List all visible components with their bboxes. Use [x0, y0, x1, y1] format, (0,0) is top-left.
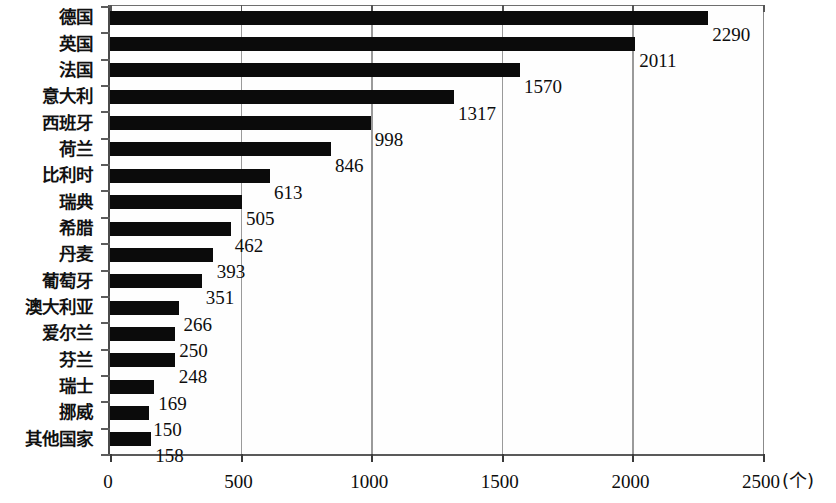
bar-value-label: 505 — [246, 209, 275, 228]
category-label: 瑞典 — [0, 194, 93, 212]
bar — [110, 142, 331, 156]
x-axis-tick — [632, 454, 634, 462]
y-axis-tick — [101, 401, 110, 403]
x-axis-tick — [763, 454, 765, 462]
category-label: 其他国家 — [0, 431, 93, 449]
x-axis-tick-labels: 05001000150020002500 — [0, 470, 836, 500]
x-axis-tick — [110, 454, 112, 462]
y-axis-tick — [101, 270, 110, 272]
bar — [110, 195, 242, 209]
plot-area — [108, 5, 764, 456]
bar-value-label: 169 — [158, 394, 187, 413]
bar-value-label: 393 — [217, 262, 246, 281]
x-axis-tick-label: 0 — [103, 472, 113, 491]
x-axis-tick-label: 1000 — [350, 472, 388, 491]
category-label: 法国 — [0, 62, 93, 80]
x-axis-tick-label: 1500 — [481, 472, 519, 491]
bar — [110, 116, 371, 130]
bar — [110, 406, 149, 420]
y-axis-tick — [101, 164, 110, 166]
bar — [110, 327, 175, 341]
bar — [110, 222, 231, 236]
category-label: 瑞士 — [0, 378, 93, 396]
bar — [110, 353, 175, 367]
bar — [110, 274, 202, 288]
bar — [110, 301, 179, 315]
category-label: 爱尔兰 — [0, 325, 93, 343]
bar-value-label: 266 — [183, 315, 212, 334]
bar-value-label: 248 — [179, 367, 208, 386]
x-axis-unit-label: (个) — [782, 472, 814, 490]
y-axis-tick — [101, 454, 110, 456]
bar-value-label: 2290 — [712, 25, 750, 44]
category-label: 荷兰 — [0, 141, 93, 159]
x-axis-tick-label: 2000 — [611, 472, 649, 491]
y-axis-tick — [101, 32, 110, 34]
bar — [110, 248, 213, 262]
bar — [110, 11, 708, 25]
y-axis-tick — [101, 217, 110, 219]
bar-value-label: 351 — [206, 288, 235, 307]
y-axis-tick — [101, 322, 110, 324]
y-axis-tick — [101, 428, 110, 430]
x-axis-tick-label: 2500 — [742, 472, 780, 491]
bar-value-label: 462 — [235, 236, 264, 255]
y-axis-tick — [101, 190, 110, 192]
y-axis-tick — [101, 59, 110, 61]
bar-value-label: 846 — [335, 156, 364, 175]
category-label: 挪威 — [0, 404, 93, 422]
y-axis-tick — [101, 243, 110, 245]
x-axis-tick — [502, 454, 504, 462]
bar — [110, 169, 270, 183]
bar-value-label: 1317 — [458, 104, 496, 123]
category-label: 德国 — [0, 9, 93, 27]
category-label: 葡萄牙 — [0, 273, 93, 291]
bar-value-label: 1570 — [524, 77, 562, 96]
bar — [110, 432, 151, 446]
y-axis-tick — [101, 296, 110, 298]
category-label: 丹麦 — [0, 246, 93, 264]
x-axis-tick — [371, 454, 373, 462]
x-axis-top-tick — [763, 5, 765, 12]
category-axis: 德国英国法国意大利西班牙荷兰比利时瑞典希腊丹麦葡萄牙澳大利亚爱尔兰芬兰瑞士挪威其… — [0, 5, 96, 453]
y-axis-tick — [101, 349, 110, 351]
bar-chart: 德国英国法国意大利西班牙荷兰比利时瑞典希腊丹麦葡萄牙澳大利亚爱尔兰芬兰瑞士挪威其… — [0, 0, 836, 503]
bar-value-label: 250 — [179, 341, 208, 360]
category-label: 希腊 — [0, 220, 93, 238]
bar — [110, 63, 520, 77]
y-axis-tick — [101, 375, 110, 377]
category-label: 比利时 — [0, 167, 93, 185]
y-axis-tick — [101, 6, 110, 8]
bar-value-label: 998 — [375, 130, 404, 149]
category-label: 英国 — [0, 36, 93, 54]
bar-value-label: 2011 — [639, 51, 676, 70]
category-label: 西班牙 — [0, 115, 93, 133]
x-axis-tick-label: 500 — [224, 472, 253, 491]
gridline — [632, 6, 634, 454]
y-axis-tick — [101, 111, 110, 113]
x-axis-tick — [241, 454, 243, 462]
bar — [110, 37, 635, 51]
bar-value-label: 150 — [153, 420, 182, 439]
bar-value-label: 158 — [155, 446, 184, 465]
category-label: 芬兰 — [0, 352, 93, 370]
bar-value-label: 613 — [274, 183, 303, 202]
y-axis-tick — [101, 85, 110, 87]
y-axis-tick — [101, 138, 110, 140]
bar — [110, 380, 154, 394]
category-label: 意大利 — [0, 88, 93, 106]
bar — [110, 90, 454, 104]
category-label: 澳大利亚 — [0, 299, 93, 317]
